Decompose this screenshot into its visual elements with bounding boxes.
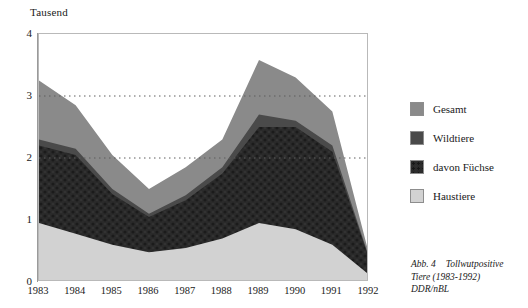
- y-axis-tick-2: 2: [2, 151, 32, 163]
- caption-line3: DDR/nBL: [411, 284, 449, 294]
- plot-area: [38, 33, 368, 281]
- x-axis: 1983198419851986198719881989199019911992: [38, 285, 368, 305]
- legend-item-davon-füchse[interactable]: davon Füchse: [410, 156, 522, 177]
- x-axis-tick-1986: 1986: [138, 285, 159, 296]
- legend-label: Wildtiere: [433, 132, 474, 144]
- x-axis-tick-1987: 1987: [174, 285, 195, 296]
- x-axis-tick-1990: 1990: [284, 285, 305, 296]
- legend-swatch-icon: [410, 131, 424, 145]
- chart-legend: GesamtWildtieredavon FüchseHaustiere: [410, 98, 522, 214]
- figure-tollwutpositive-tiere: Tausend 01234 19831984198519861987198819…: [0, 0, 528, 308]
- legend-item-wildtiere[interactable]: Wildtiere: [410, 127, 522, 148]
- x-axis-tick-1988: 1988: [211, 285, 232, 296]
- y-axis-tick-3: 3: [2, 89, 32, 101]
- legend-swatch-icon: [410, 189, 424, 203]
- legend-label: Gesamt: [433, 103, 467, 115]
- caption-number: Abb. 4: [411, 259, 436, 269]
- series-layers: [39, 60, 368, 281]
- x-axis-tick-1992: 1992: [358, 285, 379, 296]
- x-axis-tick-1984: 1984: [64, 285, 85, 296]
- area-chart-svg: [39, 34, 368, 281]
- x-axis-tick-1985: 1985: [101, 285, 122, 296]
- x-axis-tick-1991: 1991: [321, 285, 342, 296]
- legend-swatch-icon: [410, 160, 424, 174]
- y-axis: 01234: [0, 0, 38, 308]
- legend-label: davon Füchse: [433, 161, 494, 173]
- figure-caption: Abb. 4Tollwutpositive Tiere (1983-1992) …: [411, 258, 526, 296]
- x-axis-tick-1983: 1983: [28, 285, 49, 296]
- y-axis-tick-1: 1: [2, 213, 32, 225]
- x-axis-tick-1989: 1989: [248, 285, 269, 296]
- legend-label: Haustiere: [433, 190, 475, 202]
- y-axis-tick-4: 4: [2, 27, 32, 39]
- legend-item-haustiere[interactable]: Haustiere: [410, 185, 522, 206]
- caption-line2: Tiere (1983-1992): [411, 272, 480, 282]
- legend-item-gesamt[interactable]: Gesamt: [410, 98, 522, 119]
- legend-swatch-icon: [410, 102, 424, 116]
- caption-line1: Tollwutpositive: [446, 259, 504, 269]
